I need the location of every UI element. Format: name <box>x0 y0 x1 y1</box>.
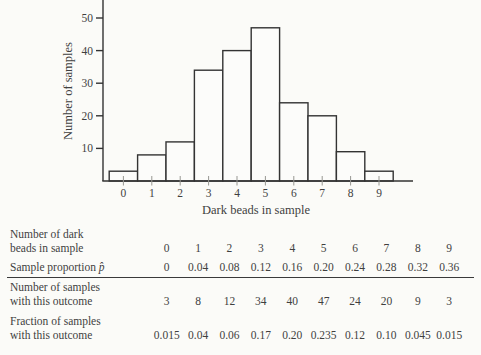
x-tick-label: 6 <box>291 187 297 199</box>
table-cell: 0 <box>151 260 182 274</box>
table-cell: 20 <box>371 294 402 308</box>
bar-5 <box>251 28 279 181</box>
table-cell: 0.36 <box>434 260 465 274</box>
row-label-line: Number of samples <box>10 280 151 294</box>
row-label-line: with this outcome <box>10 294 151 308</box>
x-tick-label: 2 <box>177 187 183 199</box>
p-hat-symbol: p̂ <box>96 261 105 273</box>
y-tick-label: 30 <box>82 77 94 89</box>
x-axis-title: Dark beads in sample <box>202 203 310 217</box>
x-tick-label: 1 <box>149 187 155 199</box>
histogram-figure: 10203040500123456789 Number of samples D… <box>0 0 481 355</box>
table-cell: 0.20 <box>277 328 308 342</box>
row-label-line: beads in sample <box>10 241 151 255</box>
summary-table: Number of darkbeads in sample0123456789S… <box>0 221 481 342</box>
table-cell: 0.04 <box>182 260 213 274</box>
row-values: 0123456789 <box>151 241 465 255</box>
table-cell: 0.17 <box>245 328 276 342</box>
table-cell: 0.06 <box>214 328 245 342</box>
table-cell: 0.10 <box>371 328 402 342</box>
x-tick-label: 0 <box>121 187 127 199</box>
table-cell: 0.08 <box>214 260 245 274</box>
table-cell: 0.16 <box>277 260 308 274</box>
table-cell: 0.28 <box>371 260 402 274</box>
table-cell: 8 <box>402 241 433 255</box>
table-cell: 34 <box>245 294 276 308</box>
table-cell: 9 <box>402 294 433 308</box>
row-label-line: with this outcome <box>10 328 151 342</box>
row-label: Fraction of sampleswith this outcome <box>0 314 151 342</box>
table-cell: 5 <box>308 241 339 255</box>
bar-7 <box>308 116 336 181</box>
table-cell: 0.015 <box>434 328 465 342</box>
histogram-chart: 10203040500123456789 Number of samples D… <box>0 0 481 220</box>
table-row: Number of darkbeads in sample0123456789 <box>0 227 481 255</box>
row-label-line: Fraction of samples <box>10 314 151 328</box>
bar-2 <box>166 142 194 181</box>
row-values: 3812344047242093 <box>151 294 465 308</box>
x-tick-label: 9 <box>376 187 382 199</box>
table-cell: 3 <box>434 294 465 308</box>
table-cell: 0.015 <box>151 328 182 342</box>
row-label-line: Sample proportion p̂ <box>10 260 151 274</box>
table-cell: 0.045 <box>402 328 433 342</box>
x-tick-label: 4 <box>234 187 240 199</box>
table-cell: 1 <box>182 241 213 255</box>
row-label: Sample proportion p̂ <box>0 260 151 274</box>
table-row: Fraction of sampleswith this outcome0.01… <box>0 314 481 342</box>
table-cell: 47 <box>308 294 339 308</box>
table-cell: 0.235 <box>308 328 339 342</box>
table-cell: 12 <box>214 294 245 308</box>
row-label: Number of sampleswith this outcome <box>0 280 151 308</box>
table-cell: 9 <box>434 241 465 255</box>
x-tick-label: 5 <box>263 187 269 199</box>
table-cell: 0.04 <box>182 328 213 342</box>
table-cell: 4 <box>277 241 308 255</box>
table-cell: 8 <box>182 294 213 308</box>
bar-6 <box>280 103 308 181</box>
table-cell: 7 <box>371 241 402 255</box>
table-cell: 40 <box>277 294 308 308</box>
table-cell: 3 <box>245 241 276 255</box>
y-tick-label: 50 <box>82 12 94 24</box>
table-cell: 0.12 <box>245 260 276 274</box>
y-tick-label: 40 <box>82 45 94 57</box>
table-cell: 3 <box>151 294 182 308</box>
table-cell: 24 <box>339 294 370 308</box>
table-divider <box>7 277 474 278</box>
y-axis-title: Number of samples <box>61 42 75 140</box>
row-label-line: Number of dark <box>10 227 151 241</box>
table-row: Number of sampleswith this outcome381234… <box>0 280 481 308</box>
table-cell: 0.24 <box>339 260 370 274</box>
x-tick-label: 8 <box>348 187 354 199</box>
row-values: 0.0150.040.060.170.200.2350.120.100.0450… <box>151 328 465 342</box>
table-cell: 2 <box>214 241 245 255</box>
x-tick-label: 3 <box>206 187 212 199</box>
row-label: Number of darkbeads in sample <box>0 227 151 255</box>
bar-4 <box>223 51 251 181</box>
table-cell: 0.12 <box>339 328 370 342</box>
bar-3 <box>194 70 222 181</box>
x-tick-label: 7 <box>319 187 325 199</box>
table-row: Sample proportion p̂00.040.080.120.160.2… <box>0 260 481 274</box>
y-tick-label: 10 <box>82 142 94 154</box>
table-cell: 0 <box>151 241 182 255</box>
row-values: 00.040.080.120.160.200.240.280.320.36 <box>151 260 465 274</box>
y-tick-label: 20 <box>82 110 94 122</box>
table-cell: 0.20 <box>308 260 339 274</box>
table-cell: 0.32 <box>402 260 433 274</box>
table-cell: 6 <box>339 241 370 255</box>
